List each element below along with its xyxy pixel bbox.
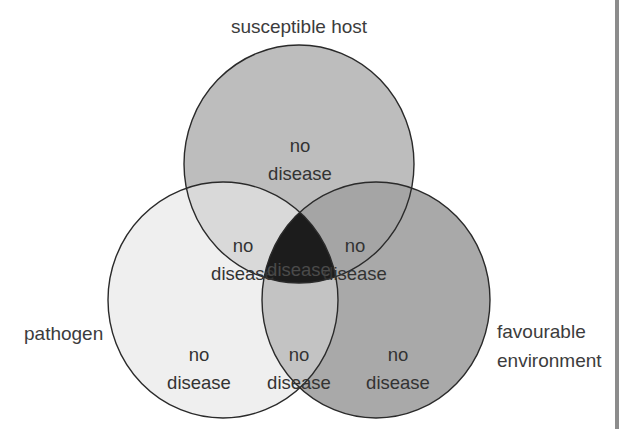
svg-text:disease: disease: [268, 163, 332, 184]
svg-text:disease: disease: [267, 259, 331, 280]
svg-text:disease: disease: [167, 372, 231, 393]
svg-text:disease: disease: [267, 372, 331, 393]
host-label: susceptible host: [231, 16, 368, 37]
svg-text:disease: disease: [366, 372, 430, 393]
svg-text:no: no: [189, 344, 210, 365]
page-edge-bar: [615, 0, 619, 429]
svg-text:no: no: [388, 344, 409, 365]
center-label: disease disease: [267, 259, 331, 280]
svg-text:disease: disease: [323, 263, 387, 284]
svg-text:no: no: [345, 235, 366, 256]
environment-label-line1: favourable: [497, 321, 586, 342]
svg-text:no: no: [290, 135, 311, 156]
venn-diagram: susceptible host pathogen favourable env…: [0, 0, 627, 429]
svg-text:disease: disease: [211, 263, 275, 284]
environment-label-line2: environment: [497, 350, 602, 371]
svg-text:no: no: [233, 235, 254, 256]
svg-text:no: no: [289, 344, 310, 365]
pathogen-label: pathogen: [24, 323, 103, 344]
